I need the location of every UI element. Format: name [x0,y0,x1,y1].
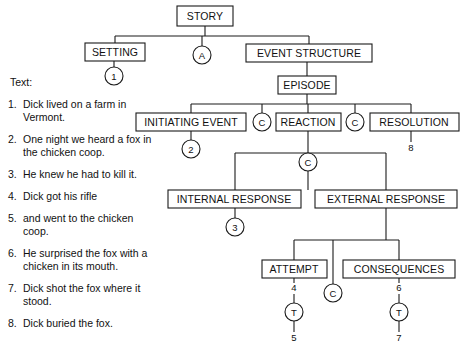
node-internal-3-label: 3 [232,222,237,233]
node-c-circle-2[interactable]: C [346,113,364,131]
text-sentence-body: He surprised the fox with a chicken in i… [23,247,160,273]
text-sentence-number: 7. [8,282,23,308]
node-c-circle-4-label: C [330,288,337,299]
text-sentence-item: 6. He surprised the fox with a chicken i… [8,247,160,273]
node-initiating-2[interactable]: 2 [182,140,200,158]
text-sentence-number: 1. [8,98,23,124]
node-c-circle-2-label: C [352,117,359,128]
text-sentence-item: 4. Dick got his rifle [8,190,160,203]
node-consequences-7-label: 7 [396,332,401,343]
node-c-circle-1-label: C [259,117,266,128]
text-sentence-body: Dick shot the fox where it stood. [23,282,160,308]
node-attempt-label: ATTEMPT [270,263,319,275]
node-attempt-t-label: T [291,307,297,318]
text-sentence-item: 2. One night we heard a fox in the chick… [8,133,160,159]
node-c-circle-4[interactable]: C [324,284,342,302]
node-event-structure-label: EVENT STRUCTURE [257,47,361,59]
node-attempt[interactable]: ATTEMPT [262,260,327,278]
node-internal-response[interactable]: INTERNAL RESPONSE [168,190,301,208]
node-consequences[interactable]: CONSEQUENCES [343,260,455,278]
text-sentence-number: 2. [8,133,23,159]
node-consequences-t-label: T [396,307,402,318]
node-story-label: STORY [187,10,223,22]
node-episode-label: EPISODE [283,79,330,91]
text-sentence-list: 1. Dick lived on a farm in Vermont. 2. O… [8,98,160,330]
node-resolution[interactable]: RESOLUTION [370,113,459,131]
story-grammar-diagram-page: STORY SETTING A EVENT STRUCTURE 1 EPISOD… [0,0,467,352]
node-a-circle-label: A [199,50,206,61]
node-event-structure[interactable]: EVENT STRUCTURE [246,44,372,62]
node-external-response-label: EXTERNAL RESPONSE [327,193,445,205]
text-sentence-body: and went to the chicken coop. [23,212,160,238]
node-external-response[interactable]: EXTERNAL RESPONSE [315,190,457,208]
node-c-circle-3[interactable]: C [299,153,317,171]
text-sentence-item: 3. He knew he had to kill it. [8,168,160,181]
node-attempt-5-label: 5 [291,332,296,343]
node-story[interactable]: STORY [177,6,233,26]
node-consequences-6-label: 6 [396,282,401,293]
text-sentence-item: 1. Dick lived on a farm in Vermont. [8,98,160,124]
node-resolution-8-label: 8 [408,142,413,153]
node-reaction-label: REACTION [280,116,335,128]
node-internal-3[interactable]: 3 [226,218,244,236]
text-sentence-number: 6. [8,247,23,273]
node-attempt-t[interactable]: T [285,303,303,321]
node-episode[interactable]: EPISODE [278,76,336,94]
text-sentence-number: 4. [8,190,23,203]
text-sentence-number: 5. [8,212,23,238]
text-sentence-number: 8. [8,317,23,330]
node-resolution-label: RESOLUTION [379,116,448,128]
node-setting[interactable]: SETTING [85,43,145,61]
node-a-circle[interactable]: A [193,46,211,64]
node-internal-response-label: INTERNAL RESPONSE [177,193,292,205]
text-sentence-item: 8. Dick buried the fox. [8,317,160,330]
text-panel-heading: Text: [10,76,160,88]
node-consequences-t[interactable]: T [390,303,408,321]
node-consequences-label: CONSEQUENCES [354,263,444,275]
text-sentence-body: Dick got his rifle [23,190,160,203]
text-sentence-item: 5. and went to the chicken coop. [8,212,160,238]
node-setting-label: SETTING [92,46,138,58]
text-panel: Text: 1. Dick lived on a farm in Vermont… [8,76,160,339]
node-initiating-2-label: 2 [188,144,193,155]
node-c-circle-1[interactable]: C [253,113,271,131]
text-sentence-body: Dick buried the fox. [23,317,160,330]
node-c-circle-3-label: C [305,157,312,168]
text-sentence-item: 7. Dick shot the fox where it stood. [8,282,160,308]
text-sentence-body: He knew he had to kill it. [23,168,160,181]
node-reaction[interactable]: REACTION [276,113,341,131]
node-attempt-4-label: 4 [291,282,296,293]
text-sentence-body: Dick lived on a farm in Vermont. [23,98,160,124]
text-sentence-number: 3. [8,168,23,181]
text-sentence-body: One night we heard a fox in the chicken … [23,133,160,159]
